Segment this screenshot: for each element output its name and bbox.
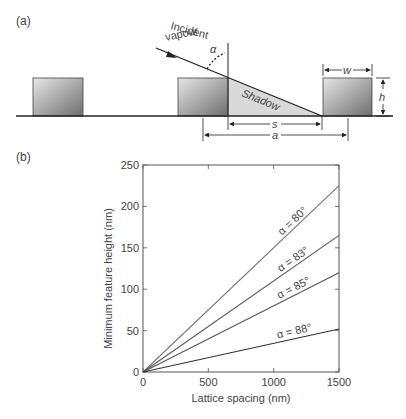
incident-label-line2: vapour (164, 24, 200, 43)
y-tick-label: 0 (133, 366, 139, 378)
y-tick-label: 250 (121, 159, 139, 171)
lattice-spacing-label: a (272, 129, 278, 141)
width-label: w (343, 64, 352, 76)
y-tick-label: 100 (121, 283, 139, 295)
x-tick-label: 0 (140, 376, 146, 388)
feature-block (33, 78, 83, 116)
figure: (a) α Incident vapour Shadow w (0, 0, 406, 419)
series-label: α = 85° (275, 274, 312, 301)
y-tick-label: 200 (121, 200, 139, 212)
x-tick-label: 500 (199, 376, 217, 388)
series-line (143, 186, 339, 372)
y-tick-label: 50 (127, 325, 139, 337)
incident-arrow-icon (166, 51, 177, 58)
panel-b: (b) 050010001500050100150200250Lattice s… (16, 150, 351, 404)
panel-a: (a) α Incident vapour Shadow w (16, 14, 393, 141)
series-label: α = 88° (276, 321, 313, 340)
feature-block (323, 78, 372, 116)
y-axis-label: Minimum feature height (nm) (102, 208, 114, 349)
x-tick-label: 1000 (261, 376, 285, 388)
height-label: h (379, 91, 385, 103)
y-tick-label: 150 (121, 242, 139, 254)
x-axis-label: Lattice spacing (nm) (191, 392, 290, 404)
plot-frame (143, 165, 339, 372)
chart: 050010001500050100150200250Lattice spaci… (102, 159, 351, 404)
alpha-arc (207, 53, 225, 69)
x-tick-label: 1500 (327, 376, 351, 388)
series-label: α = 80° (275, 204, 309, 237)
panel-a-label: (a) (16, 14, 31, 28)
series-line (143, 235, 339, 372)
feature-block (178, 78, 228, 116)
alpha-label: α (210, 43, 217, 55)
series-line (143, 329, 339, 372)
panel-b-label: (b) (16, 150, 31, 164)
